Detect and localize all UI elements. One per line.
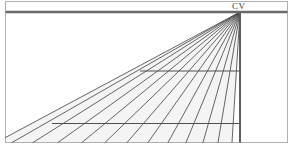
vanishing-point-label: CV: [232, 2, 245, 11]
perspective-diagram: CV: [0, 0, 294, 150]
diagram-canvas: [0, 0, 294, 150]
